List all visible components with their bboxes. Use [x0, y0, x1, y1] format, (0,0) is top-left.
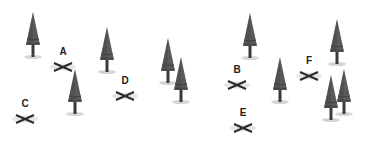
x-marker-icon [294, 68, 324, 80]
x-marker-icon [110, 88, 140, 100]
marker-label-e: E [236, 107, 250, 118]
x-marker-icon [222, 77, 252, 89]
x-marker-icon [10, 111, 40, 123]
marker-label-a: A [56, 46, 70, 57]
marker-label-d: D [118, 75, 132, 86]
tree-icon [171, 57, 191, 105]
tree-icon [327, 19, 347, 67]
x-marker-icon [48, 59, 78, 71]
marker-label-b: B [230, 64, 244, 75]
tree-icon [65, 69, 85, 117]
tree-icon [97, 27, 117, 75]
marker-label-c: C [18, 98, 32, 109]
x-marker-icon [228, 120, 258, 132]
tree-icon [270, 57, 290, 105]
marker-label-f: F [302, 55, 316, 66]
tree-icon [321, 75, 341, 123]
tree-icon [240, 13, 260, 61]
tree-icon [23, 12, 43, 60]
